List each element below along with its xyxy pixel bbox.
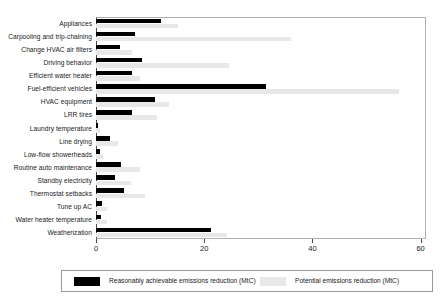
bar-group: [96, 69, 426, 82]
y-axis-tick-label: Carpooling and trip-chaining: [0, 33, 92, 40]
bars-layer: [96, 17, 426, 239]
y-axis-tick-label: Fuel-efficient vehicles: [0, 85, 92, 92]
x-axis-tick-mark: [96, 239, 97, 243]
bar-group: [96, 56, 426, 69]
bar-group: [96, 187, 426, 200]
bar-group: [96, 200, 426, 213]
bar-reasonably-achievable: [96, 188, 124, 193]
x-axis-tick-label: 20: [200, 244, 208, 253]
bar-group: [96, 148, 426, 161]
bar-group: [96, 226, 426, 239]
bar-potential: [96, 102, 169, 107]
bar-potential: [96, 115, 157, 120]
bar-potential: [96, 154, 103, 159]
bar-reasonably-achievable: [96, 149, 100, 154]
bar-group: [96, 95, 426, 108]
y-axis-tick-label: Change HVAC air filters: [0, 46, 92, 53]
bar-group: [96, 174, 426, 187]
bar-potential: [96, 37, 291, 42]
y-axis-tick-label: Routine auto maintenance: [0, 164, 92, 171]
bar-reasonably-achievable: [96, 84, 266, 89]
bar-reasonably-achievable: [96, 97, 155, 102]
x-axis: 0204060: [96, 239, 426, 259]
bar-reasonably-achievable: [96, 162, 121, 167]
y-axis-tick-label: HVAC equipment: [0, 98, 92, 105]
x-axis-tick-label: 0: [94, 244, 98, 253]
bar-reasonably-achievable: [96, 58, 142, 63]
chart-legend: Reasonably achievable emissions reductio…: [61, 270, 433, 292]
bar-chart: AppliancesCarpooling and trip-chainingCh…: [0, 0, 442, 299]
bar-reasonably-achievable: [96, 19, 161, 24]
bar-potential: [96, 220, 107, 225]
bar-potential: [96, 89, 399, 94]
y-axis-tick-label: Tune up AC: [0, 203, 92, 210]
legend-entry-potential: Potential emissions reduction (MtC): [260, 271, 399, 291]
bar-potential: [96, 50, 132, 55]
bar-group: [96, 135, 426, 148]
bar-potential: [96, 24, 178, 29]
y-axis-tick-label: Thermostat setbacks: [0, 190, 92, 197]
legend-swatch-light-icon: [260, 277, 286, 286]
y-axis-tick-label: Efficient water heater: [0, 72, 92, 79]
bar-group: [96, 161, 426, 174]
x-axis-tick-mark: [421, 239, 422, 243]
bar-potential: [96, 233, 227, 238]
y-axis-tick-label: Weatherization: [0, 229, 92, 236]
x-axis-tick-mark: [312, 239, 313, 243]
bar-group: [96, 17, 426, 30]
bar-potential: [96, 76, 140, 81]
y-axis-tick-label: LRR tires: [0, 111, 92, 118]
bar-potential: [96, 63, 229, 68]
bar-reasonably-achievable: [96, 32, 135, 37]
bar-reasonably-achievable: [96, 175, 115, 180]
bar-group: [96, 43, 426, 56]
x-axis-tick-label: 60: [416, 244, 424, 253]
y-axis-labels: AppliancesCarpooling and trip-chainingCh…: [0, 17, 92, 239]
bar-potential: [96, 141, 118, 146]
bar-reasonably-achievable: [96, 136, 110, 141]
bar-reasonably-achievable: [96, 215, 101, 220]
legend-swatch-dark-icon: [74, 277, 100, 286]
x-axis-tick-mark: [204, 239, 205, 243]
bar-group: [96, 82, 426, 95]
y-axis-tick-label: Water heater temperature: [0, 216, 92, 223]
y-axis-tick-label: Driving behavior: [0, 59, 92, 66]
bar-potential: [96, 207, 107, 212]
bar-group: [96, 30, 426, 43]
y-axis-tick-label: Line drying: [0, 138, 92, 145]
y-axis-tick-label: Standby electricity: [0, 177, 92, 184]
bar-reasonably-achievable: [96, 71, 132, 76]
bar-reasonably-achievable: [96, 123, 98, 128]
y-axis-tick-label: Laundry temperature: [0, 125, 92, 132]
legend-entry-reasonably-achievable: Reasonably achievable emissions reductio…: [74, 271, 256, 291]
legend-label-potential: Potential emissions reduction (MtC): [295, 277, 399, 285]
bar-reasonably-achievable: [96, 110, 132, 115]
bar-group: [96, 108, 426, 121]
bar-reasonably-achievable: [96, 45, 120, 50]
bar-group: [96, 213, 426, 226]
bar-reasonably-achievable: [96, 201, 102, 206]
bar-potential: [96, 167, 140, 172]
x-axis-tick-label: 40: [308, 244, 316, 253]
bar-potential: [96, 181, 131, 186]
y-axis-tick-label: Appliances: [0, 20, 92, 27]
y-axis-tick-label: Low-flow showerheads: [0, 151, 92, 158]
bar-group: [96, 121, 426, 134]
bar-potential: [96, 128, 100, 133]
bar-potential: [96, 194, 145, 199]
legend-label-reasonably-achievable: Reasonably achievable emissions reductio…: [109, 277, 256, 285]
bar-reasonably-achievable: [96, 228, 211, 233]
